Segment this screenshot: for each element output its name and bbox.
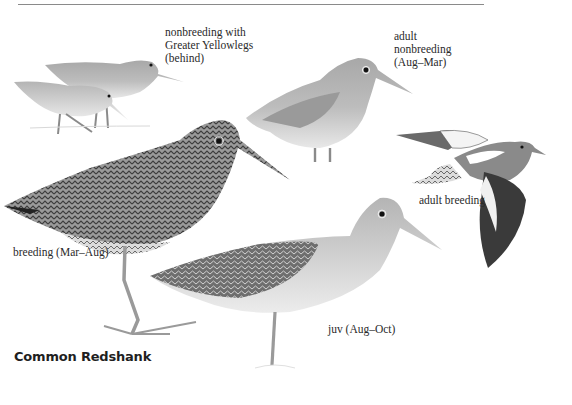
bird-illustrations xyxy=(0,0,572,405)
species-title: Common Redshank xyxy=(14,349,151,364)
label-breeding: breeding (Mar–Aug) xyxy=(13,246,108,259)
label-nonbreeding-with-yellowlegs: nonbreeding with Greater Yellowlegs (beh… xyxy=(165,26,253,65)
bird-adult-nonbreeding xyxy=(246,58,413,162)
label-adult-breeding: adult breeding xyxy=(419,194,485,207)
label-adult-nonbreeding: adult nonbreeding (Aug–Mar) xyxy=(394,30,451,69)
label-juvenile: juv (Aug–Oct) xyxy=(328,323,395,336)
